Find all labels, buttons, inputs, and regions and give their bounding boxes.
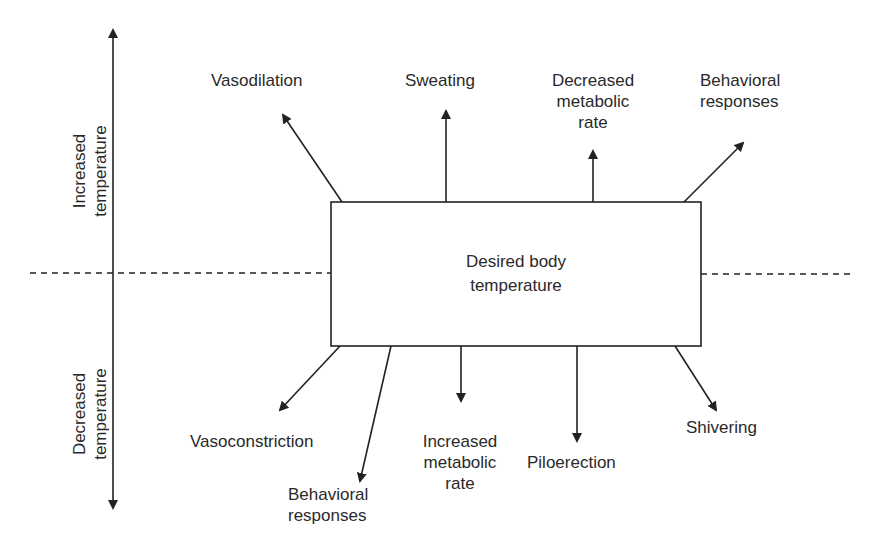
center-line2: temperature xyxy=(470,274,562,298)
vasoconstriction-label: Vasoconstriction xyxy=(190,431,313,452)
shivering-text: Shivering xyxy=(686,417,757,438)
decreased-metabolic-rate-line2: metabolic xyxy=(543,91,643,112)
desired-body-temperature-label: Desired body temperature xyxy=(331,202,701,346)
increased-metabolic-rate-label: Increased metabolic rate xyxy=(410,431,510,494)
behavioral-responses-up-label: Behavioral responses xyxy=(700,70,780,112)
piloerection-label: Piloerection xyxy=(527,452,616,473)
behavioral-down-line1: Behavioral xyxy=(288,484,368,505)
behavioral-up-line2: responses xyxy=(700,91,780,112)
decreased-metabolic-rate-line1: Decreased xyxy=(543,70,643,91)
vasodilation-label: Vasodilation xyxy=(211,70,302,91)
sweating-text: Sweating xyxy=(405,70,475,91)
decreased-metabolic-rate-label: Decreased metabolic rate xyxy=(543,70,643,133)
vasodilation-text: Vasodilation xyxy=(211,70,302,91)
decreased-metabolic-rate-line3: rate xyxy=(543,112,643,133)
increased-metabolic-rate-line2: metabolic xyxy=(410,452,510,473)
increased-metabolic-rate-line3: rate xyxy=(410,473,510,494)
axis-upper-line1: Increased xyxy=(69,111,90,231)
behavioral-down-line2: responses xyxy=(288,505,368,526)
sweating-label: Sweating xyxy=(405,70,475,91)
shivering-label: Shivering xyxy=(686,417,757,438)
center-line1: Desired body xyxy=(466,250,566,274)
vasoconstriction-arrow xyxy=(280,346,340,410)
shivering-arrow xyxy=(675,346,716,410)
increased-temperature-label: Increased temperature xyxy=(69,111,111,231)
behavioral-up-line1: Behavioral xyxy=(700,70,780,91)
axis-upper-line2: temperature xyxy=(90,111,111,231)
increased-metabolic-rate-line1: Increased xyxy=(410,431,510,452)
behavioral-responses-down-arrow xyxy=(360,346,391,481)
axis-lower-line2: temperature xyxy=(90,354,111,474)
piloerection-text: Piloerection xyxy=(527,452,616,473)
behavioral-responses-down-label: Behavioral responses xyxy=(288,484,368,526)
behavioral-responses-up-arrow xyxy=(684,143,743,202)
axis-lower-line1: Decreased xyxy=(69,354,90,474)
vasodilation-arrow xyxy=(283,115,342,202)
decreased-temperature-label: Decreased temperature xyxy=(69,354,111,474)
vasoconstriction-text: Vasoconstriction xyxy=(190,431,313,452)
